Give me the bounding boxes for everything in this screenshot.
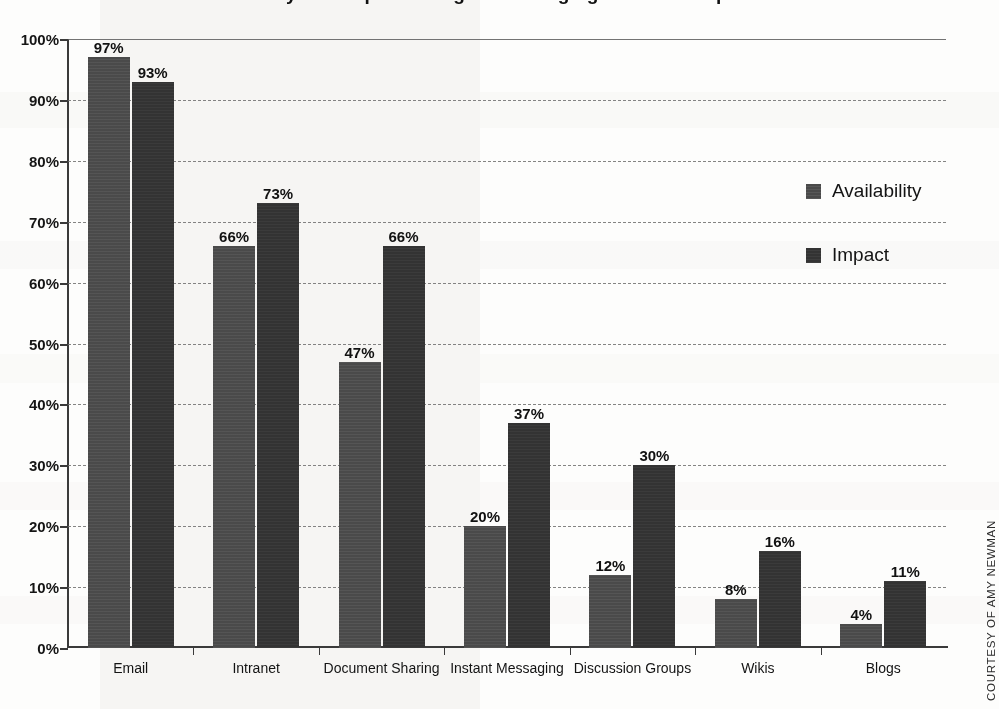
bar-availability-document-sharing[interactable]: 47% xyxy=(339,362,381,648)
legend-item-impact[interactable]: Impact xyxy=(806,242,966,268)
y-axis-tick-label: 20% xyxy=(29,518,59,535)
bar-value-label: 97% xyxy=(94,40,124,55)
bar-impact-instant-messaging[interactable]: 37% xyxy=(508,423,550,648)
x-axis-tick-mark xyxy=(319,648,320,655)
bar-value-label: 66% xyxy=(219,229,249,244)
bar-impact-intranet[interactable]: 73% xyxy=(257,203,299,648)
bar-group: 66%73%Intranet xyxy=(193,39,318,648)
y-axis-tick-label: 90% xyxy=(29,91,59,108)
x-axis-tick-mark xyxy=(570,648,571,655)
chart-title: Availability and Impact of Digital Messa… xyxy=(0,0,999,5)
bar-value-label: 66% xyxy=(389,229,419,244)
legend-label-availability: Availability xyxy=(832,180,921,202)
y-axis-tick-label: 50% xyxy=(29,335,59,352)
bar-availability-instant-messaging[interactable]: 20% xyxy=(464,526,506,648)
bar-group: 12%30%Discussion Groups xyxy=(570,39,695,648)
bar-availability-blogs[interactable]: 4% xyxy=(840,624,882,648)
x-axis-category-label: Instant Messaging xyxy=(450,660,564,676)
y-axis-tick-label: 30% xyxy=(29,457,59,474)
x-axis-category-label: Email xyxy=(113,660,148,676)
x-axis-tick-mark xyxy=(821,648,822,655)
chart-figure: Availability and Impact of Digital Messa… xyxy=(0,0,999,709)
bar-impact-document-sharing[interactable]: 66% xyxy=(383,246,425,648)
y-axis-tick-mark xyxy=(60,39,68,41)
x-axis-category-label: Wikis xyxy=(741,660,774,676)
y-axis-tick-mark xyxy=(60,283,68,285)
bar-value-label: 20% xyxy=(470,509,500,524)
plot-area: 0%10%20%30%40%50%60%70%80%90%100% 97%93%… xyxy=(68,39,946,648)
bar-value-label: 11% xyxy=(891,564,920,579)
y-axis-tick-mark xyxy=(60,222,68,224)
y-axis-tick-mark xyxy=(60,587,68,589)
bar-group: 4%11%Blogs xyxy=(821,39,946,648)
bar-impact-blogs[interactable]: 11% xyxy=(884,581,926,648)
y-axis-tick-mark xyxy=(60,161,68,163)
bar-value-label: 4% xyxy=(850,607,872,622)
legend-swatch-impact-icon xyxy=(806,248,821,263)
chart-legend: Availability Impact xyxy=(806,178,966,306)
y-axis-tick-mark xyxy=(60,465,68,467)
y-axis-tick-label: 0% xyxy=(37,640,59,657)
x-axis-category-label: Intranet xyxy=(232,660,279,676)
y-axis-tick-label: 100% xyxy=(21,31,59,48)
y-axis-tick-mark xyxy=(60,404,68,406)
x-axis-category-label: Blogs xyxy=(866,660,901,676)
bar-value-label: 30% xyxy=(639,448,669,463)
y-axis-tick-mark xyxy=(60,100,68,102)
bar-group: 47%66%Document Sharing xyxy=(319,39,444,648)
bar-value-label: 47% xyxy=(345,345,375,360)
x-axis-category-label: Discussion Groups xyxy=(574,660,692,676)
legend-swatch-availability-icon xyxy=(806,184,821,199)
y-axis-tick-label: 60% xyxy=(29,274,59,291)
y-axis-tick-label: 80% xyxy=(29,152,59,169)
x-axis-tick-mark xyxy=(193,648,194,655)
legend-label-impact: Impact xyxy=(832,244,889,266)
bar-group: 97%93%Email xyxy=(68,39,193,648)
bar-value-label: 12% xyxy=(595,558,625,573)
legend-item-availability[interactable]: Availability xyxy=(806,178,966,204)
y-axis-tick-mark xyxy=(60,344,68,346)
bar-availability-email[interactable]: 97% xyxy=(88,57,130,648)
bar-impact-email[interactable]: 93% xyxy=(132,82,174,648)
bar-availability-wikis[interactable]: 8% xyxy=(715,599,757,648)
photo-credit: COURTESY OF AMY NEWMAN xyxy=(985,520,997,701)
bar-value-label: 73% xyxy=(263,186,293,201)
bar-value-label: 93% xyxy=(138,65,168,80)
bar-impact-discussion-groups[interactable]: 30% xyxy=(633,465,675,648)
bar-availability-intranet[interactable]: 66% xyxy=(213,246,255,648)
bar-availability-discussion-groups[interactable]: 12% xyxy=(589,575,631,648)
bar-value-label: 37% xyxy=(514,406,544,421)
y-axis-tick-label: 40% xyxy=(29,396,59,413)
bar-value-label: 16% xyxy=(765,534,795,549)
x-axis-tick-mark xyxy=(695,648,696,655)
bar-group: 20%37%Instant Messaging xyxy=(444,39,569,648)
y-axis-tick-label: 10% xyxy=(29,579,59,596)
bar-value-label: 8% xyxy=(725,582,747,597)
y-axis-tick-label: 70% xyxy=(29,213,59,230)
y-axis-tick-mark xyxy=(60,526,68,528)
bar-impact-wikis[interactable]: 16% xyxy=(759,551,801,648)
x-axis-category-label: Document Sharing xyxy=(324,660,440,676)
y-axis-tick-mark xyxy=(60,648,68,650)
x-axis-tick-mark xyxy=(444,648,445,655)
bar-group: 8%16%Wikis xyxy=(695,39,820,648)
